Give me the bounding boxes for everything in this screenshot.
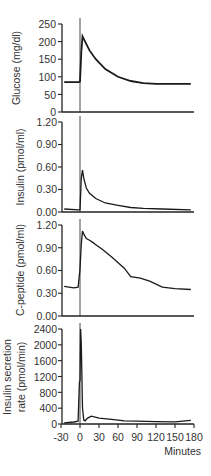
tick-label: 50: [44, 89, 56, 101]
isr-line: [64, 329, 191, 423]
x-tick-label: 60: [112, 431, 124, 443]
x-tick-label: 0: [77, 431, 83, 443]
tick-label: 0.60: [37, 264, 58, 276]
glucose-panel: Glucose (mg/dl) 250 200 150 100 50 0: [10, 18, 194, 118]
isr-ylabel-line1: Insulin secretion: [1, 339, 13, 415]
x-tick-label: 90: [131, 431, 143, 443]
cpeptide-panel: C-peptide (pmol/ml) 1.20 0.90 0.60 0.30 …: [14, 219, 194, 322]
x-tick-label: 180: [185, 431, 203, 443]
tick-label: 1.20: [37, 219, 58, 231]
insulin-ylabel: Insulin (pmol/ml): [14, 128, 26, 205]
insulin-panel: Insulin (pmol/ml) 1.20 0.90 0.60 0.30 0.…: [14, 116, 194, 218]
tick-label: 1600: [34, 355, 58, 367]
tick-label: 800: [39, 387, 57, 399]
tick-label: 0.60: [37, 161, 58, 173]
tick-label: 400: [39, 402, 57, 414]
figure-canvas: Glucose (mg/dl) 250 200 150 100 50 0 Ins…: [0, 0, 211, 476]
tick-label: 0.00: [37, 310, 58, 322]
tick-label: 150: [38, 53, 56, 65]
tick-label: 250: [38, 18, 56, 30]
x-tick-label: 120: [147, 431, 165, 443]
cpeptide-axes: [58, 219, 194, 316]
tick-label: 2000: [34, 339, 58, 351]
insulin-axes: [58, 116, 194, 212]
tick-label: 0.30: [37, 183, 58, 195]
x-tick-label: 150: [166, 431, 184, 443]
insulin-line: [64, 170, 191, 210]
x-tick-label: 30: [93, 431, 105, 443]
glucose-ylabel: Glucose (mg/dl): [10, 31, 22, 105]
tick-label: 2400: [34, 323, 58, 335]
tick-label: 0.30: [37, 287, 58, 299]
glucose-axes: [58, 18, 194, 112]
tick-label: 100: [38, 71, 56, 83]
cpeptide-line: [64, 231, 191, 289]
isr-ylabel-line2: rate (pmol/min): [15, 342, 27, 413]
tick-label: 200: [38, 36, 56, 48]
tick-label: 0.90: [37, 242, 58, 254]
tick-label: 1200: [34, 371, 58, 383]
isr-panel: Insulin secretion rate (pmol/min) 2400 2…: [1, 323, 203, 457]
x-tick-label: -30: [53, 431, 68, 443]
x-axis-label: Minutes: [164, 445, 201, 457]
tick-label: 0.90: [37, 138, 58, 150]
tick-label: 0.00: [37, 206, 58, 218]
glucose-line: [64, 36, 191, 84]
cpeptide-ylabel: C-peptide (pmol/ml): [14, 224, 26, 316]
tick-label: 0: [51, 418, 57, 430]
tick-label: 1.20: [37, 116, 58, 128]
